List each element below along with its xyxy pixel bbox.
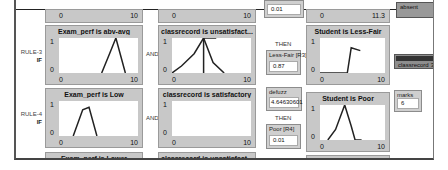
x-axis-max: 10 [243,12,251,19]
y-axis-max: 1 [163,101,167,108]
monitor-value: 6 [397,98,419,109]
y-axis-min: 0 [163,66,167,73]
previous-output-monitor: 0.01 [264,0,304,18]
then-label: THEN [275,115,291,121]
plot-title: Student is Poor [307,95,389,102]
previous-plot-bottom-col1: 0 10 [45,9,143,23]
plot-classrecord-satisfactory: classrecord is satisfactory 1 0 0 10 [158,88,256,148]
monitor-label: Poor [R4] [269,126,294,132]
membership-curve [172,38,251,73]
x-axis-min: 0 [320,12,324,19]
monitor-value: 0.01 [269,135,298,146]
x-axis-max: 10 [243,139,251,146]
plot-area [59,38,138,73]
y-axis-max: 1 [50,101,54,108]
monitor-value: 0.01 [267,4,301,15]
x-axis-min: 0 [320,143,324,150]
previous-plot-bottom-col4: 0 11.3 [306,9,390,23]
membership-curve [59,101,138,136]
plot-classrecord-unsatisfactory: classrecord is unsatisfact... 1 0 0 10 [158,25,256,85]
y-axis-max: 1 [50,38,54,45]
plot-title: Student is Less-Fair [307,28,389,35]
next-plot-top-col1: Exam_perf is Lower [45,152,143,160]
plot-student-less-fair: Student is Less-Fair 1 0 0 10 [306,25,390,85]
y-axis-min: 0 [311,66,315,73]
x-axis-max: 10 [130,139,138,146]
x-axis-min: 0 [59,12,63,19]
and-label: AND [146,51,159,57]
if-label: IF [18,118,42,126]
x-axis-max: 10 [130,76,138,83]
x-axis-min: 0 [59,139,63,146]
defuzz-monitor: defuzz 4.64630601 [266,87,302,111]
plot-title: Exam_perf is Low [46,91,142,98]
monitor-value: 0.87 [269,61,298,72]
output-monitor-less-fair-r3: Less-Fair [R3] 0.87 [266,50,301,75]
and-label: AND [146,115,159,121]
membership-curve [320,38,385,73]
classrecord-slider[interactable]: classrecord 3 [394,54,434,69]
membership-curve [320,105,385,140]
x-axis-max: 10 [377,143,385,150]
monitor-value: 4.64630601 [269,97,299,108]
x-axis-max: 11.3 [372,12,385,19]
plot-title: classrecord is unsatisfact... [159,155,255,160]
y-axis-min: 0 [50,66,54,73]
plot-title: classrecord is satisfactory [159,91,255,98]
plot-area [59,101,138,136]
x-axis-min: 0 [320,76,324,83]
plot-area [172,101,251,136]
y-axis-min: 0 [163,129,167,136]
y-axis-max: 1 [311,38,315,45]
plot-exam-perf-low: Exam_perf is Low 1 0 0 10 [45,88,143,148]
rule-3-label: RULE-3 IF [18,48,42,64]
y-axis-min: 0 [50,129,54,136]
top-right-slider[interactable]: absent [396,2,434,18]
x-axis-max: 10 [130,12,138,19]
monitor-label: Less-Fair [R3] [269,52,307,58]
slider-value: 3 [431,62,434,68]
x-axis-min: 0 [172,76,176,83]
plot-area [172,38,251,73]
then-label: THEN [275,41,291,47]
plot-student-poor: Student is Poor 1 0 0 10 [306,92,390,152]
y-axis-max: 1 [311,105,315,112]
x-axis-min: 0 [172,12,176,19]
if-label: IF [18,56,42,64]
x-axis-max: 10 [377,76,385,83]
slider-label: absent [400,4,418,10]
marks-monitor: marks 6 [394,90,422,112]
x-axis-min: 0 [172,139,176,146]
previous-plot-bottom-col2: 0 10 [158,9,256,23]
y-axis-max: 1 [163,38,167,45]
rule-4-label: RULE-4 IF [18,110,42,126]
netlogo-interface-canvas: 0 10 0 10 0.01 0 11.3 absent RULE-3 IF E… [14,0,434,160]
x-axis-min: 0 [59,76,63,83]
plot-title: classrecord is unsatisfact... [159,28,255,35]
membership-curve [59,38,138,73]
next-plot-top-col4 [306,155,390,160]
plot-exam-perf-abv-avg: Exam_perf is abv-avg 1 0 0 10 [45,25,143,85]
plot-title: Exam_perf is abv-avg [46,28,142,35]
output-monitor-poor-r4: Poor [R4] 0.01 [266,124,301,149]
monitor-label: defuzz [269,89,287,95]
next-plot-top-col2: classrecord is unsatisfact... [158,152,256,160]
plot-area [320,38,385,73]
slider-label: classrecord [398,62,429,68]
slider-track[interactable] [396,56,434,61]
x-axis-max: 10 [243,76,251,83]
y-axis-min: 0 [311,133,315,140]
plot-title: Exam_perf is Lower [46,155,142,160]
plot-area [320,105,385,140]
